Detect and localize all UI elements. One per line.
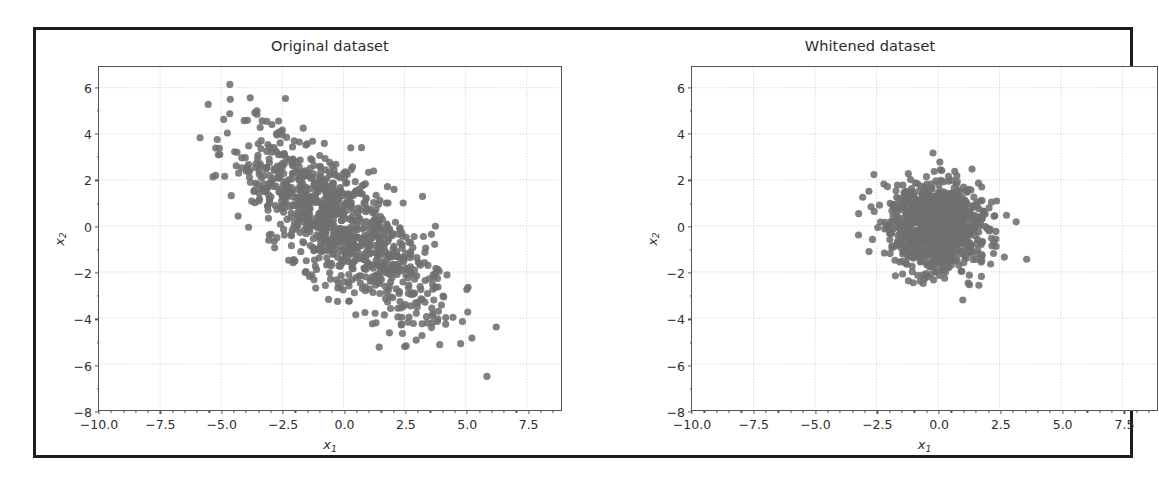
x-tick-mark-minor bbox=[233, 410, 234, 413]
x-tick-mark-minor bbox=[270, 410, 271, 413]
x-tick-mark bbox=[283, 410, 284, 414]
x-tick-mark-minor bbox=[454, 410, 455, 413]
y-tick-label: −4 bbox=[667, 312, 685, 327]
x-tick-label: −5.0 bbox=[800, 417, 830, 432]
x-tick-mark-minor bbox=[479, 410, 480, 413]
x-tick-mark bbox=[1062, 410, 1063, 414]
y-tick-mark bbox=[688, 319, 692, 320]
scatter-plot-original bbox=[99, 67, 561, 410]
x-tick-mark-minor bbox=[741, 410, 742, 413]
x-tick-mark bbox=[1000, 410, 1001, 414]
y-tick-label: 2 bbox=[677, 173, 685, 188]
x-tick-label: −7.5 bbox=[145, 417, 175, 432]
y-tick-mark bbox=[95, 87, 99, 88]
x-tick-mark-minor bbox=[704, 410, 705, 413]
x-tick-mark-minor bbox=[356, 410, 357, 413]
x-tick-label: 0.0 bbox=[929, 417, 949, 432]
y-tick-mark-minor bbox=[97, 342, 100, 343]
x-tick-label: 5.0 bbox=[1053, 417, 1073, 432]
x-tick-mark-minor bbox=[951, 410, 952, 413]
y-tick-mark-minor bbox=[97, 110, 100, 111]
x-tick-mark-minor bbox=[840, 410, 841, 413]
x-tick-mark bbox=[221, 410, 222, 414]
x-tick-mark bbox=[815, 410, 816, 414]
x-axis-label: x1 bbox=[692, 437, 1157, 454]
y-tick-label: −6 bbox=[667, 358, 685, 373]
x-axis-label: x1 bbox=[99, 437, 561, 454]
y-tick-mark-minor bbox=[690, 157, 693, 158]
chart-panel-whitened: Whitened dataset 6420−2−4−6−8−10.0−7.5−5… bbox=[596, 30, 1136, 455]
x-tick-mark bbox=[753, 410, 754, 414]
x-tick-mark-minor bbox=[1087, 410, 1088, 413]
chart-panel-original: Original dataset 6420−2−4−6−8−10.0−7.5−5… bbox=[36, 30, 596, 455]
x-tick-mark-minor bbox=[393, 410, 394, 413]
x-tick-mark-minor bbox=[172, 410, 173, 413]
x-tick-mark-minor bbox=[1037, 410, 1038, 413]
x-tick-mark-minor bbox=[197, 410, 198, 413]
x-tick-mark-minor bbox=[963, 410, 964, 413]
x-tick-mark-minor bbox=[914, 410, 915, 413]
y-tick-label: 0 bbox=[677, 219, 685, 234]
x-tick-mark-minor bbox=[1025, 410, 1026, 413]
x-tick-label: −7.5 bbox=[739, 417, 769, 432]
y-tick-mark bbox=[688, 134, 692, 135]
y-tick-mark bbox=[95, 365, 99, 366]
x-tick-mark-minor bbox=[319, 410, 320, 413]
x-tick-label: 7.5 bbox=[1114, 417, 1134, 432]
x-tick-label: 7.5 bbox=[519, 417, 539, 432]
x-tick-mark bbox=[528, 410, 529, 414]
y-tick-mark-minor bbox=[690, 203, 693, 204]
x-tick-mark-minor bbox=[1136, 410, 1137, 413]
y-tick-mark bbox=[95, 180, 99, 181]
x-tick-label: 2.5 bbox=[991, 417, 1011, 432]
x-tick-label: −10.0 bbox=[673, 417, 711, 432]
x-tick-mark-minor bbox=[803, 410, 804, 413]
x-tick-mark bbox=[1124, 410, 1125, 414]
x-tick-mark bbox=[877, 410, 878, 414]
x-tick-mark-minor bbox=[246, 410, 247, 413]
x-tick-mark-minor bbox=[827, 410, 828, 413]
x-tick-mark-minor bbox=[1149, 410, 1150, 413]
x-tick-mark-minor bbox=[418, 410, 419, 413]
y-tick-mark-minor bbox=[97, 388, 100, 389]
x-tick-mark-minor bbox=[540, 410, 541, 413]
chart-title-original: Original dataset bbox=[36, 38, 596, 54]
x-tick-mark-minor bbox=[889, 410, 890, 413]
x-tick-mark bbox=[691, 410, 692, 414]
x-tick-mark-minor bbox=[184, 410, 185, 413]
y-tick-mark bbox=[688, 226, 692, 227]
y-tick-mark bbox=[95, 272, 99, 273]
x-tick-mark bbox=[938, 410, 939, 414]
x-tick-mark-minor bbox=[332, 410, 333, 413]
x-tick-mark bbox=[344, 410, 345, 414]
y-tick-mark-minor bbox=[97, 157, 100, 158]
x-tick-mark-minor bbox=[1074, 410, 1075, 413]
y-tick-mark bbox=[688, 365, 692, 366]
x-tick-label: 0.0 bbox=[335, 417, 355, 432]
x-tick-mark-minor bbox=[1099, 410, 1100, 413]
x-tick-mark-minor bbox=[135, 410, 136, 413]
y-axis-label: x2 bbox=[645, 232, 662, 246]
axes-whitened: 6420−2−4−6−8−10.0−7.5−5.0−2.50.02.55.07.… bbox=[691, 66, 1158, 411]
x-tick-label: 2.5 bbox=[396, 417, 416, 432]
y-tick-label: −2 bbox=[74, 266, 92, 281]
x-tick-mark-minor bbox=[728, 410, 729, 413]
x-tick-mark-minor bbox=[258, 410, 259, 413]
x-tick-mark-minor bbox=[790, 410, 791, 413]
y-tick-mark-minor bbox=[97, 203, 100, 204]
y-tick-mark-minor bbox=[690, 110, 693, 111]
y-tick-label: −4 bbox=[74, 312, 92, 327]
x-tick-label: −2.5 bbox=[268, 417, 298, 432]
y-tick-mark bbox=[95, 134, 99, 135]
y-tick-mark bbox=[688, 272, 692, 273]
x-tick-mark-minor bbox=[503, 410, 504, 413]
x-tick-mark-minor bbox=[307, 410, 308, 413]
x-tick-mark-minor bbox=[442, 410, 443, 413]
chart-title-whitened: Whitened dataset bbox=[596, 38, 1136, 54]
y-axis-label: x2 bbox=[52, 232, 69, 246]
x-tick-mark-minor bbox=[111, 410, 112, 413]
y-tick-label: 4 bbox=[677, 127, 685, 142]
x-tick-mark-minor bbox=[852, 410, 853, 413]
figure-frame: Original dataset 6420−2−4−6−8−10.0−7.5−5… bbox=[33, 27, 1133, 458]
y-tick-label: 4 bbox=[84, 127, 92, 142]
